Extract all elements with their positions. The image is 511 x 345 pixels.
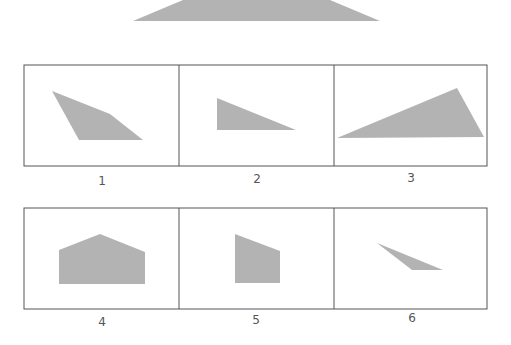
option-label-5: 5 <box>246 313 266 327</box>
option-label-2: 2 <box>247 172 267 186</box>
option-shape-2[interactable] <box>217 98 296 130</box>
option-shape-1[interactable] <box>52 91 143 140</box>
option-label-6: 6 <box>402 311 422 325</box>
option-shape-4[interactable] <box>59 234 145 284</box>
option-label-3: 3 <box>401 171 421 185</box>
option-label-4: 4 <box>92 315 112 329</box>
reference-shape <box>133 0 380 21</box>
option-shape-3[interactable] <box>337 88 484 138</box>
option-label-1: 1 <box>92 174 112 188</box>
option-shape-5[interactable] <box>235 234 280 283</box>
option-shape-6[interactable] <box>377 243 443 270</box>
